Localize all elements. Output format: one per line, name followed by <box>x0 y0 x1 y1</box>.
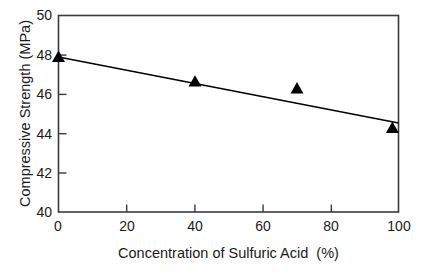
x-axis-title: Concentration of Sulfuric Acid (%) <box>58 243 399 263</box>
x-tick-label-80: 80 <box>323 219 339 233</box>
x-tick-label-60: 60 <box>255 219 271 233</box>
trend-line <box>59 57 399 123</box>
x-tick-label-20: 20 <box>119 219 135 233</box>
x-tick-label-0: 0 <box>54 219 62 233</box>
y-axis-ticks <box>59 55 67 173</box>
x-tick-label-40: 40 <box>187 219 203 233</box>
y-axis-title: Compressive Strength (MPa) <box>14 15 36 212</box>
data-point-0 <box>52 51 65 62</box>
data-point-1 <box>189 75 202 86</box>
plot-canvas <box>0 0 421 275</box>
data-point-2 <box>291 82 304 93</box>
data-point-markers <box>52 51 399 133</box>
x-tick-label-100: 100 <box>387 219 410 233</box>
chart-figure: 50 48 46 44 42 40 0 20 40 60 80 100 Comp… <box>0 0 421 275</box>
x-axis-ticks <box>127 205 332 213</box>
